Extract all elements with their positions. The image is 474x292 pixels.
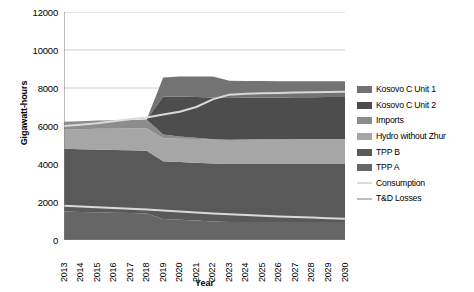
legend-item-label: Consumption bbox=[376, 179, 425, 188]
legend-item-label: Kosovo C Unit 2 bbox=[376, 101, 436, 110]
y-axis-tick-label: 4000 bbox=[24, 160, 58, 169]
y-axis-tick-label: 8000 bbox=[24, 84, 58, 93]
legend-swatch bbox=[357, 182, 372, 184]
y-axis-tick-label: 2000 bbox=[24, 198, 58, 207]
legend-item-label: Kosovo C Unit 1 bbox=[376, 85, 436, 94]
legend-swatch bbox=[357, 117, 372, 124]
legend-item-label: Hydro without Zhur bbox=[376, 132, 446, 141]
legend-item[interactable]: Consumption bbox=[357, 176, 474, 192]
x-axis-tick-labels: 2013201420152016201720182019202020212022… bbox=[64, 242, 345, 282]
legend-item[interactable]: TPP B bbox=[357, 144, 474, 160]
legend-item[interactable]: Kosovo C Unit 1 bbox=[357, 82, 474, 98]
chart-legend: Kosovo C Unit 1Kosovo C Unit 2ImportsHyd… bbox=[357, 82, 474, 207]
legend-item[interactable]: Imports bbox=[357, 113, 474, 129]
legend-item-label: TPP A bbox=[376, 163, 399, 172]
y-axis-tick-labels: 120001000080006000400020000 bbox=[22, 0, 58, 292]
legend-item[interactable]: Hydro without Zhur bbox=[357, 129, 474, 145]
y-axis-tick-label: 6000 bbox=[24, 122, 58, 131]
legend-item-label: TPP B bbox=[376, 148, 400, 157]
y-axis-tick-label: 0 bbox=[24, 236, 58, 245]
legend-item-label: Imports bbox=[376, 116, 404, 125]
stacked-areas bbox=[64, 76, 345, 240]
legend-item[interactable]: T&D Losses bbox=[357, 191, 474, 207]
legend-swatch bbox=[357, 164, 372, 171]
chart-container: Gigawatt-hours 1200010000800060004000200… bbox=[0, 0, 474, 292]
x-axis-title: Year bbox=[64, 278, 345, 288]
legend-item[interactable]: Kosovo C Unit 2 bbox=[357, 98, 474, 114]
legend-swatch bbox=[357, 102, 372, 109]
legend-swatch bbox=[357, 133, 372, 140]
legend-item-label: T&D Losses bbox=[376, 194, 421, 203]
chart-svg bbox=[64, 12, 345, 240]
legend-swatch bbox=[357, 149, 372, 156]
legend-swatch bbox=[357, 198, 372, 200]
y-axis-tick-label: 10000 bbox=[24, 46, 58, 55]
legend-swatch bbox=[357, 86, 372, 93]
legend-item[interactable]: TPP A bbox=[357, 160, 474, 176]
plot-area bbox=[64, 12, 345, 240]
y-axis-tick-label: 12000 bbox=[24, 8, 58, 17]
